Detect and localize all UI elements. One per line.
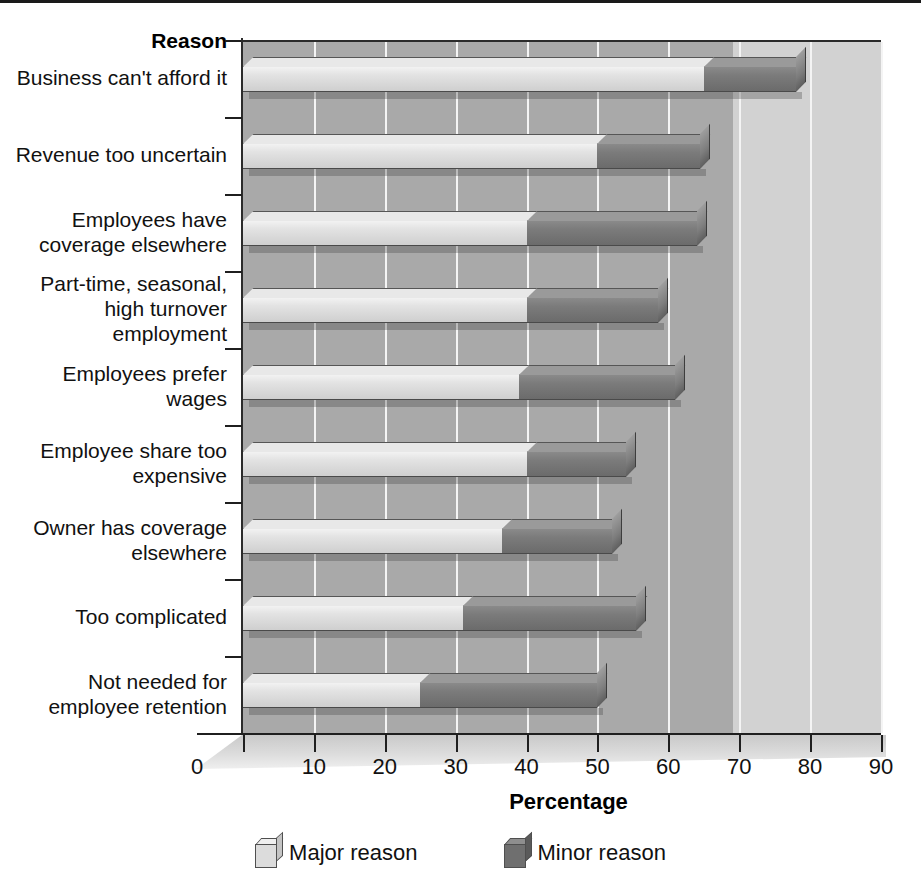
x-tick-label-50: 50: [567, 754, 627, 780]
bar-top-minor: [463, 596, 647, 606]
x-tick-label-90: 90: [851, 754, 911, 780]
x-tick-label-20: 20: [355, 754, 415, 780]
x-tick-label-0: 0: [167, 754, 227, 780]
x-tick-50: [597, 735, 599, 752]
bar-top-major: [243, 288, 537, 298]
bar-segment-major-0[interactable]: [243, 66, 704, 92]
bar-segment-minor-7[interactable]: [463, 605, 637, 631]
bar-segment-major-1[interactable]: [243, 143, 597, 169]
bar-segment-minor-4[interactable]: [519, 374, 675, 400]
x-tick-40: [527, 735, 529, 752]
x-tick-60: [668, 735, 670, 752]
x-axis-title-text: Percentage: [509, 789, 628, 814]
x-tick-label-40: 40: [497, 754, 557, 780]
bar-top-major: [243, 519, 512, 529]
bar-shadow: [249, 169, 706, 176]
bar-shadow: [249, 708, 603, 715]
legend-item-major[interactable]: Major reason: [255, 838, 417, 868]
y-axis-label-7: Too complicated: [75, 604, 227, 629]
x-tick-label-70: 70: [709, 754, 769, 780]
gridline-70: [739, 42, 741, 733]
x-axis-title: Percentage: [0, 789, 921, 815]
bar-shadow: [249, 477, 632, 484]
bar-top-minor: [527, 211, 707, 221]
y-axis-label-5: Employee share too expensive: [40, 438, 227, 488]
bar-segment-major-4[interactable]: [243, 374, 519, 400]
y-tick-6: [225, 502, 242, 504]
bar-0[interactable]: [243, 66, 796, 92]
x-tick-0: [243, 735, 245, 752]
bar-segment-minor-6[interactable]: [502, 528, 612, 554]
x-tick-label-60: 60: [638, 754, 698, 780]
bar-4[interactable]: [243, 374, 675, 400]
bar-top-minor: [527, 442, 637, 452]
bar-segment-minor-5[interactable]: [527, 451, 626, 477]
x-tick-10: [314, 735, 316, 752]
x-tick-30: [456, 735, 458, 752]
y-axis-label-8: Not needed for employee retention: [48, 669, 227, 719]
bar-shadow: [249, 246, 703, 253]
y-axis-label-4: Employees prefer wages: [62, 361, 227, 411]
y-axis-label-2: Employees have coverage elsewhere: [39, 207, 227, 257]
bar-2[interactable]: [243, 220, 697, 246]
bar-segment-minor-3[interactable]: [527, 297, 658, 323]
y-tick-3: [225, 271, 242, 273]
bar-top-major: [243, 596, 473, 606]
x-tick-70: [739, 735, 741, 752]
bar-top-major: [243, 211, 537, 221]
bar-top-major: [243, 442, 537, 452]
y-axis-title-tick: [225, 40, 242, 42]
legend-label-major: Major reason: [289, 840, 417, 866]
bar-shadow: [249, 323, 664, 330]
bar-7[interactable]: [243, 605, 636, 631]
y-axis-label-6: Owner has coverage elsewhere: [33, 515, 227, 565]
bar-6[interactable]: [243, 528, 612, 554]
bar-segment-minor-0[interactable]: [704, 66, 796, 92]
y-tick-4: [225, 348, 242, 350]
minor-reason-swatch-icon: [504, 838, 526, 868]
bar-shadow: [249, 554, 618, 561]
stacked-bar-chart: Reason Percentage Major reason Minor rea…: [0, 0, 921, 894]
bar-top-major: [243, 57, 714, 67]
y-axis-label-0: Business can't afford it: [17, 65, 227, 90]
gridline-90: [881, 42, 883, 733]
y-axis-title: Reason: [151, 29, 227, 53]
bar-segment-major-3[interactable]: [243, 297, 527, 323]
plot-light-band: [733, 42, 881, 733]
bar-top-major: [243, 365, 530, 375]
bar-segment-minor-1[interactable]: [597, 143, 700, 169]
bar-segment-minor-2[interactable]: [527, 220, 697, 246]
y-tick-2: [225, 194, 242, 196]
x-tick-label-10: 10: [284, 754, 344, 780]
bar-segment-major-6[interactable]: [243, 528, 502, 554]
bar-shadow: [249, 92, 802, 99]
bar-1[interactable]: [243, 143, 700, 169]
x-axis-line: [197, 733, 881, 735]
legend-label-minor: Minor reason: [538, 840, 666, 866]
bar-5[interactable]: [243, 451, 626, 477]
bar-8[interactable]: [243, 682, 597, 708]
x-tick-20: [385, 735, 387, 752]
y-axis-label-3: Part-time, seasonal, high turnover emplo…: [40, 271, 227, 346]
bar-shadow: [249, 400, 681, 407]
bar-3[interactable]: [243, 297, 658, 323]
y-tick-5: [225, 425, 242, 427]
y-axis-label-1: Revenue too uncertain: [16, 142, 227, 167]
y-tick-1: [225, 117, 242, 119]
bar-segment-major-8[interactable]: [243, 682, 420, 708]
bar-segment-major-7[interactable]: [243, 605, 463, 631]
x-tick-label-80: 80: [780, 754, 840, 780]
y-tick-8: [225, 656, 242, 658]
bar-top-minor: [704, 57, 806, 67]
bar-segment-major-5[interactable]: [243, 451, 527, 477]
bar-top-minor: [502, 519, 622, 529]
bar-top-minor: [519, 365, 685, 375]
y-tick-7: [225, 579, 242, 581]
bar-shadow: [249, 631, 642, 638]
bar-segment-minor-8[interactable]: [420, 682, 597, 708]
x-tick-80: [810, 735, 812, 752]
x-tick-label-30: 30: [426, 754, 486, 780]
bar-segment-major-2[interactable]: [243, 220, 527, 246]
x-tick-90: [881, 735, 883, 752]
legend-item-minor[interactable]: Minor reason: [504, 838, 666, 868]
